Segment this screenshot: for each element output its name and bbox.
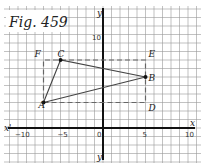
y-prime-axis-label: y' — [96, 152, 105, 162]
figure-title: Fig. 459 — [8, 14, 68, 30]
point-label-e: E — [148, 49, 156, 59]
x-tick-label: 0 — [97, 131, 101, 139]
x-tick-label: 10 — [185, 131, 194, 139]
y-tick-label: 10 — [92, 34, 101, 42]
x-tick-label: −5 — [58, 131, 68, 139]
point-label-c: C — [58, 49, 65, 59]
point-label-b: B — [148, 73, 156, 83]
y-axis-label: y — [96, 8, 103, 18]
x-tick-label: −10 — [15, 131, 30, 139]
coordinate-grid-figure: xx'yy'−10−5051010 ABCDEF Fig. 459 — [0, 0, 201, 163]
x-tick-label: 5 — [143, 131, 147, 139]
point-b-dot — [144, 75, 148, 79]
point-label-d: D — [148, 103, 156, 113]
point-label-a: A — [38, 100, 46, 110]
x-axis-label: x — [190, 118, 195, 128]
x-prime-axis-label: x' — [4, 123, 12, 133]
point-label-f: F — [34, 49, 42, 59]
